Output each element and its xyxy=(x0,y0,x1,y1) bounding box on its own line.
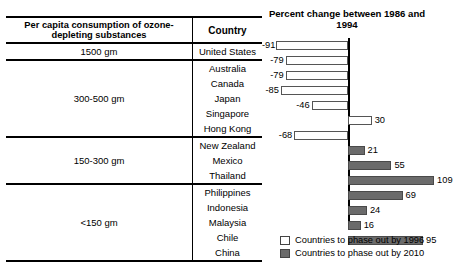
chart-bar-value-label: -79 xyxy=(262,53,284,68)
table-group: 1500 gmUnited States xyxy=(6,44,262,59)
chart-bar-value-label: -68 xyxy=(262,128,292,143)
chart-bar-row: -46 xyxy=(262,98,449,113)
chart-plot-area: -91-79-79-85-4630-68215510969241695 xyxy=(262,38,449,230)
group-consumption-label: 300-500 gm xyxy=(6,61,192,136)
chart-bar-value-label: 24 xyxy=(370,203,380,218)
chart-bar-row: -79 xyxy=(262,68,449,83)
header-consumption: Per capita consumption of ozone-depletin… xyxy=(6,20,192,40)
table-row: Hong Kong xyxy=(193,121,262,136)
chart-bar-row: -79 xyxy=(262,53,449,68)
chart-bar-value-label: -91 xyxy=(262,38,274,53)
chart-bar xyxy=(286,71,348,80)
chart-bar-row: -91 xyxy=(262,38,449,53)
chart-title: Percent change between 1986 and 1994 xyxy=(262,8,432,30)
table-header-row: Per capita consumption of ozone-depletin… xyxy=(6,18,262,42)
chart-bar-row: 24 xyxy=(262,203,449,218)
chart-bar-value-label: 109 xyxy=(437,173,453,188)
chart-bar xyxy=(312,101,348,110)
group-consumption-label: 150-300 gm xyxy=(6,138,192,183)
table-row: Canada xyxy=(193,76,262,91)
chart-bar xyxy=(348,161,391,170)
chart-bar xyxy=(348,116,372,125)
table-row: Japan xyxy=(193,91,262,106)
group-country-rows: PhilippinesIndonesiaMalaysiaChileChina xyxy=(192,185,262,260)
table-row: United States xyxy=(193,44,262,59)
legend-swatch-open xyxy=(280,236,290,245)
chart-bar-value-label: 16 xyxy=(364,218,374,233)
group-consumption-label: <150 gm xyxy=(6,185,192,260)
chart-bar xyxy=(348,191,403,200)
chart-bar xyxy=(276,41,348,50)
group-consumption-label: 1500 gm xyxy=(6,44,192,59)
consumption-table: Per capita consumption of ozone-depletin… xyxy=(6,16,262,262)
chart-bar xyxy=(294,131,348,140)
legend-item: Countries to phase out by 1996 xyxy=(280,234,450,246)
chart-bar-value-label: 69 xyxy=(406,188,416,203)
table-row: Singapore xyxy=(193,106,262,121)
table-row: Thailand xyxy=(193,168,262,183)
legend-label: Countries to phase out by 2010 xyxy=(295,248,424,258)
table-body: 1500 gmUnited States300-500 gmAustraliaC… xyxy=(6,44,262,262)
table-row: Australia xyxy=(193,61,262,76)
table-group-rule xyxy=(6,260,262,262)
chart-bar-row: 21 xyxy=(262,143,449,158)
table-row: New Zealand xyxy=(193,138,262,153)
legend-label: Countries to phase out by 1996 xyxy=(295,235,424,245)
table-row: Philippines xyxy=(193,185,262,200)
chart-bar-value-label: -46 xyxy=(262,98,310,113)
chart-bar xyxy=(286,56,348,65)
chart-bar xyxy=(348,146,365,155)
chart-bar-row: -85 xyxy=(262,83,449,98)
table-group: 150-300 gmNew ZealandMexicoThailand xyxy=(6,138,262,183)
table-row: Mexico xyxy=(193,153,262,168)
chart-bar-value-label: 55 xyxy=(394,158,404,173)
chart-bar xyxy=(281,86,348,95)
header-country: Country xyxy=(192,18,262,42)
chart-bar-row: 16 xyxy=(262,218,449,233)
table-row: Malaysia xyxy=(193,215,262,230)
table-group: <150 gmPhilippinesIndonesiaMalaysiaChile… xyxy=(6,185,262,260)
table-row: Indonesia xyxy=(193,200,262,215)
bar-chart: Percent change between 1986 and 1994 -91… xyxy=(262,0,449,273)
chart-bar-row: 30 xyxy=(262,113,449,128)
chart-bar-row: 55 xyxy=(262,158,449,173)
group-country-rows: New ZealandMexicoThailand xyxy=(192,138,262,183)
chart-bar xyxy=(348,221,361,230)
legend-swatch-fill xyxy=(280,249,290,258)
table-row: Chile xyxy=(193,230,262,245)
group-country-rows: United States xyxy=(192,44,262,59)
chart-bar-row: -68 xyxy=(262,128,449,143)
table-group: 300-500 gmAustraliaCanadaJapanSingaporeH… xyxy=(6,61,262,136)
chart-bar-value-label: -85 xyxy=(262,83,279,98)
chart-legend: Countries to phase out by 1996Countries … xyxy=(280,234,450,260)
chart-bar xyxy=(348,176,434,185)
group-country-rows: AustraliaCanadaJapanSingaporeHong Kong xyxy=(192,61,262,136)
chart-bar-row: 109 xyxy=(262,173,449,188)
chart-bar-row: 69 xyxy=(262,188,449,203)
chart-bar xyxy=(348,206,367,215)
table-row: China xyxy=(193,245,262,260)
chart-bar-value-label: 30 xyxy=(375,113,385,128)
legend-item: Countries to phase out by 2010 xyxy=(280,247,450,259)
chart-bar-value-label: -79 xyxy=(262,68,284,83)
chart-bar-value-label: 21 xyxy=(368,143,378,158)
